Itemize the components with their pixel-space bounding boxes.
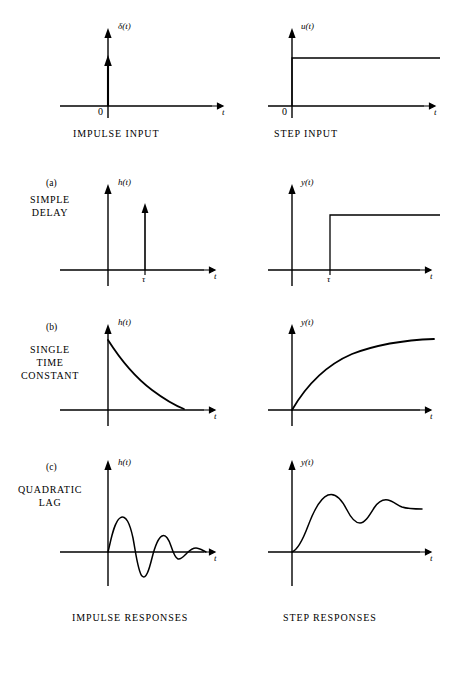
quadratic-lag-impulse-y-label: h(t) (118, 458, 131, 467)
single-time-constant-impulse-x-label: t (214, 412, 217, 421)
bottom-caption-step-responses: STEP RESPONSES (283, 612, 377, 623)
row-tag-c: (c) (46, 462, 57, 472)
step-input-caption: STEP INPUT (274, 128, 338, 139)
quadratic-lag-step-plot (268, 458, 448, 588)
single-time-constant-step-y-label: y(t) (301, 318, 314, 327)
simple-delay-step-plot (268, 178, 448, 288)
row-tag-b: (b) (46, 322, 57, 332)
row-quadratic-lag: (c) QUADRATIC LAG h(t) t y(t) t (0, 458, 467, 588)
step-input-y-label: u(t) (301, 22, 314, 31)
impulse-input-caption: IMPULSE INPUT (73, 128, 159, 139)
step-input-plot (268, 18, 448, 118)
single-time-constant-step-x-label: t (430, 412, 433, 421)
simple-delay-impulse-plot (60, 178, 235, 288)
quadratic-lag-impulse-x-label: t (214, 554, 217, 563)
impulse-input-x-label: t (222, 108, 225, 117)
impulse-input-y-label: δ(t) (118, 22, 131, 31)
simple-delay-impulse-x-label: t (214, 272, 217, 281)
single-time-constant-step-plot (268, 318, 448, 428)
quadratic-lag-impulse-plot (60, 458, 235, 588)
figure-root: δ(t) t 0 IMPULSE INPUT u(t) t 0 STEP INP… (0, 0, 467, 678)
simple-delay-step-tau-label: τ (327, 275, 330, 284)
row-simple-delay: (a) SIMPLE DELAY h(t) t τ (0, 178, 467, 293)
row-single-time-constant: (b) SINGLE TIME CONSTANT h(t) t y(t (0, 318, 467, 433)
simple-delay-impulse-tau-label: τ (142, 275, 145, 284)
impulse-input-plot (60, 18, 235, 118)
single-time-constant-impulse-plot (60, 318, 235, 428)
single-time-constant-impulse-y-label: h(t) (118, 318, 131, 327)
bottom-caption-impulse-responses: IMPULSE RESPONSES (72, 612, 188, 623)
simple-delay-impulse-y-label: h(t) (118, 178, 131, 187)
quadratic-lag-step-x-label: t (430, 554, 433, 563)
inputs-row: δ(t) t 0 IMPULSE INPUT u(t) t 0 STEP INP… (0, 18, 467, 138)
quadratic-lag-step-y-label: y(t) (301, 458, 314, 467)
simple-delay-step-x-label: t (430, 272, 433, 281)
step-input-x-label: t (434, 108, 437, 117)
step-input-origin-label: 0 (282, 107, 287, 117)
row-tag-a: (a) (46, 178, 57, 188)
impulse-input-origin-label: 0 (98, 107, 103, 117)
simple-delay-step-y-label: y(t) (301, 178, 314, 187)
